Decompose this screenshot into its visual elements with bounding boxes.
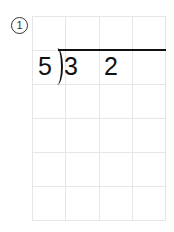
grid-cell[interactable] [33,187,66,221]
grid-cell[interactable] [100,153,133,187]
grid-cell[interactable] [133,17,166,51]
grid-cell[interactable] [66,85,99,119]
dividend-digit: 2 [104,51,118,81]
grid-cell[interactable] [133,153,166,187]
grid-cell[interactable] [100,17,133,51]
grid-cell[interactable] [133,85,166,119]
answer-grid [32,16,166,221]
grid-cell[interactable] [133,187,166,221]
grid-cell[interactable] [100,119,133,153]
grid-cell[interactable] [100,85,133,119]
grid-cell[interactable] [66,187,99,221]
grid-cell[interactable] [66,153,99,187]
grid-cell[interactable] [33,85,66,119]
grid-cell[interactable] [33,153,66,187]
grid-cell[interactable] [133,51,166,85]
grid-cell[interactable] [66,119,99,153]
grid-cell[interactable] [33,119,66,153]
problem-number-label: 1 [11,17,28,34]
grid-cell[interactable] [100,187,133,221]
division-bracket [51,48,63,85]
grid-cell[interactable] [66,17,99,51]
dividend-digit: 3 [64,51,78,81]
grid-cell[interactable] [33,17,66,51]
grid-cell[interactable] [133,119,166,153]
divisor: 5 [38,51,52,81]
